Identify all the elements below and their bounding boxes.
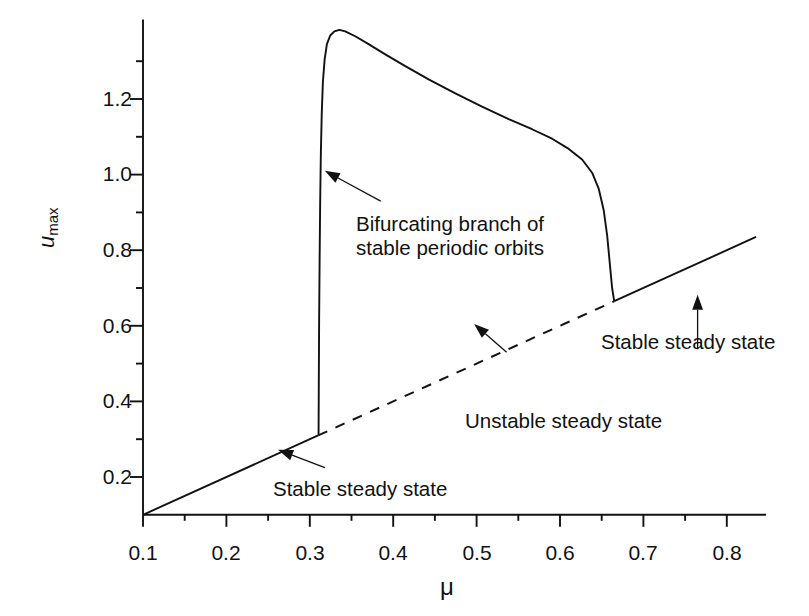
y-axis-title: umax [34, 207, 60, 248]
axes [130, 20, 766, 527]
xtick-label-0.7: 0.7 [613, 541, 673, 565]
arrow-shaft-unstable-steady-state [485, 334, 506, 352]
series-2 [614, 237, 756, 301]
ytick-label-1.2: 1.2 [78, 87, 132, 111]
x-axis-title: μ [440, 573, 454, 601]
xtick-label-0.2: 0.2 [196, 541, 256, 565]
xtick-label-0.5: 0.5 [447, 541, 507, 565]
annotation-stable-steady-state-upper: Stable steady state [601, 330, 775, 354]
annotation-bifurcating-branch: Bifurcating branch ofstable periodic orb… [356, 212, 544, 260]
arrow-shaft-stable-steady-state-lower [292, 455, 325, 467]
xtick-label-0.8: 0.8 [697, 541, 757, 565]
arrow-head-stable-steady-state-lower [278, 450, 294, 460]
xtick-label-0.6: 0.6 [530, 541, 590, 565]
annotation-unstable-steady-state: Unstable steady state [465, 409, 662, 433]
ytick-label-0.2: 0.2 [78, 465, 132, 489]
arrow-head-stable-steady-state-upper [692, 295, 703, 310]
ytick-label-0.4: 0.4 [78, 389, 132, 413]
y-axis-variable: u [34, 236, 59, 248]
data-curves [143, 30, 756, 515]
xtick-label-0.4: 0.4 [363, 541, 423, 565]
annotation-stable-steady-state-lower: Stable steady state [273, 477, 447, 501]
annotation-bifurcating-line2: stable periodic orbits [356, 236, 544, 259]
bifurcation-diagram-figure: 1.2 1.0 0.8 0.6 0.4 0.2 0.1 0.2 0.3 0.4 … [0, 0, 809, 616]
xtick-label-0.1: 0.1 [113, 541, 173, 565]
xtick-label-0.3: 0.3 [280, 541, 340, 565]
arrow-shaft-bifurcating-branch [338, 178, 381, 201]
ytick-label-0.8: 0.8 [78, 238, 132, 262]
ytick-label-1.0: 1.0 [78, 162, 132, 186]
series-0 [143, 435, 318, 514]
arrow-head-bifurcating-branch [325, 171, 341, 183]
ytick-label-0.6: 0.6 [78, 314, 132, 338]
annotation-bifurcating-line1: Bifurcating branch of [356, 212, 544, 235]
y-axis-subscript: max [44, 207, 61, 235]
